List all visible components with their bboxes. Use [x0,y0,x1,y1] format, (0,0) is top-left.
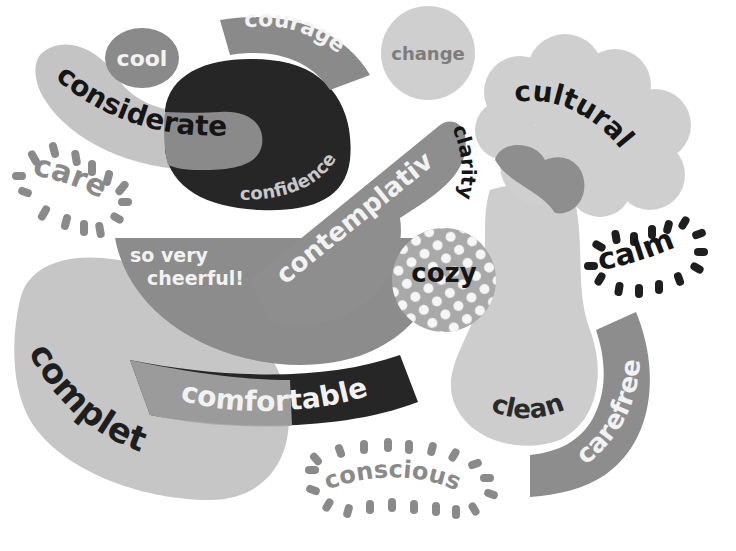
word-cozy: cozy [411,258,476,288]
word-change: change [391,43,465,64]
word-collage: cool courage change considerate confiden… [0,0,736,551]
word-so-very: so very [130,244,209,266]
word-cool: cool [117,46,168,71]
word-cheerful: cheerful! [147,267,244,289]
